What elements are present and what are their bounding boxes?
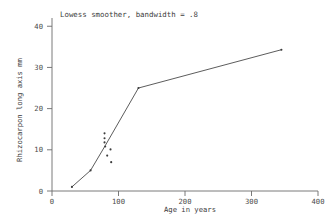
y-tick-label: 20: [34, 104, 43, 113]
x-tick-label: 100: [112, 197, 125, 206]
data-point: [110, 161, 112, 163]
data-point: [103, 137, 105, 139]
y-tick-label: 40: [34, 22, 43, 31]
data-point: [106, 155, 108, 157]
data-point: [103, 132, 105, 134]
x-tick-label: 200: [179, 197, 192, 206]
y-tick-label: 0: [39, 187, 43, 196]
lowess-scatter-chart: Lowess smoother, bandwidth = .8 Rhizocar…: [0, 0, 328, 221]
chart-title: Lowess smoother, bandwidth = .8: [60, 10, 198, 19]
data-points: [71, 49, 283, 188]
x-axis-title: Age in years: [164, 205, 216, 214]
y-tick-label: 10: [34, 145, 43, 154]
x-axis-ticks: 0100200300400: [50, 191, 325, 206]
data-point: [103, 141, 105, 143]
data-point: [90, 169, 92, 171]
x-tick-label: 300: [245, 197, 258, 206]
lowess-smoother-line: [72, 50, 281, 187]
plot-canvas: Lowess smoother, bandwidth = .8 Rhizocar…: [0, 0, 328, 221]
y-axis-title: Rhizocarpon long axis mm: [15, 58, 24, 162]
y-tick-label: 30: [34, 63, 43, 72]
y-axis-ticks: 010203040: [34, 22, 52, 196]
x-tick-label: 0: [50, 197, 54, 206]
data-point: [104, 145, 106, 147]
data-point: [109, 148, 111, 150]
data-point: [280, 49, 282, 51]
data-point: [71, 186, 73, 188]
data-point: [137, 87, 139, 89]
x-tick-label: 400: [312, 197, 325, 206]
